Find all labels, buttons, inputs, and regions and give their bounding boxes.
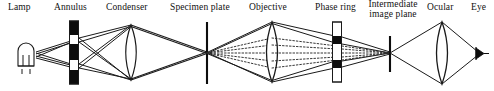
label-phase-ring: Phase ring: [315, 3, 356, 13]
label-intermediate-image-plane: Intermediate image plane: [364, 0, 422, 20]
phasering-to-intermediate-direct-rays: [342, 37, 390, 67]
lamp-bulb: [18, 43, 34, 74]
label-condenser: Condenser: [106, 3, 148, 13]
label-objective: Objective: [249, 3, 287, 13]
condenser-to-specimen-rays: [131, 25, 207, 80]
label-specimen-plate: Specimen plate: [170, 3, 230, 13]
objective-lens: [267, 22, 278, 82]
lamp-to-annulus-rays: [36, 40, 74, 68]
ocular-lens: [437, 22, 448, 84]
optical-diagram: Lamp Annulus Condenser Specimen plate Ob…: [0, 0, 494, 91]
label-ocular: Ocular: [427, 3, 453, 13]
phase-ring-plate: [333, 22, 342, 82]
eye-marker: [476, 47, 489, 60]
specimen-to-objective-direct-rays: [207, 22, 272, 82]
specimen-to-objective-diffracted-rays: [207, 38, 272, 68]
label-annulus: Annulus: [54, 3, 87, 13]
condenser-lens: [126, 25, 137, 80]
intermediate-to-ocular-rays: [390, 22, 442, 84]
annulus-stop: [70, 21, 79, 84]
objective-to-phasering-direct-rays: [272, 22, 337, 82]
label-lamp: Lamp: [8, 3, 31, 13]
label-eye: Eye: [471, 3, 486, 13]
annulus-to-condenser-rays: [79, 25, 131, 80]
